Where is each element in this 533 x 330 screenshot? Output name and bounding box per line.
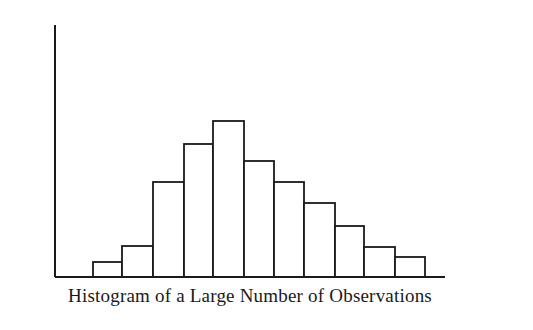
histogram-chart xyxy=(0,0,533,285)
histogram-bars xyxy=(93,121,425,277)
histogram-bar xyxy=(153,182,184,277)
histogram-bar xyxy=(213,121,244,277)
histogram-bar xyxy=(122,246,153,277)
histogram-bar xyxy=(304,203,335,277)
histogram-bar xyxy=(395,257,425,277)
chart-caption: Histogram of a Large Number of Observati… xyxy=(0,285,500,307)
histogram-bar xyxy=(364,247,395,277)
histogram-bar xyxy=(244,161,274,277)
histogram-bar xyxy=(274,182,304,277)
histogram-bar xyxy=(335,226,364,277)
histogram-bar xyxy=(93,262,122,277)
histogram-bar xyxy=(184,144,213,277)
